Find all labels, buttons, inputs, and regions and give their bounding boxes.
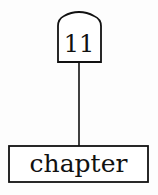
tree-diagram: 11 chapter <box>0 0 158 195</box>
top-node-label: 11 <box>64 30 95 58</box>
bottom-node-label: chapter <box>30 149 128 178</box>
top-node: 11 <box>58 12 101 62</box>
bottom-node: chapter <box>9 146 148 182</box>
